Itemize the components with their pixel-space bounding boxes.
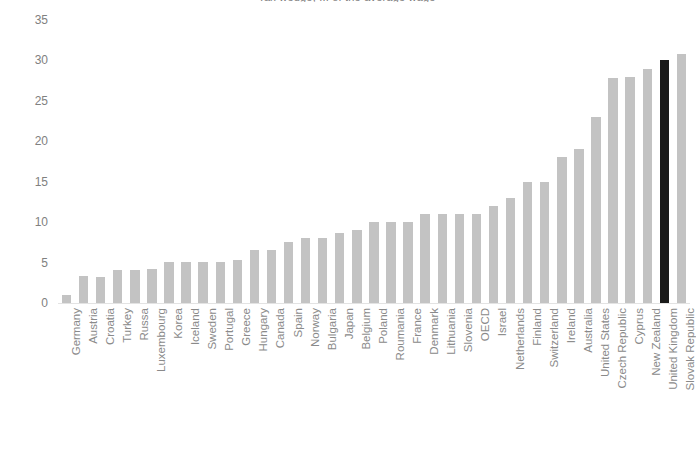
bar bbox=[660, 60, 669, 303]
bar bbox=[591, 117, 600, 303]
bar-cell bbox=[348, 20, 365, 303]
bar-cell bbox=[280, 20, 297, 303]
bar bbox=[523, 182, 532, 303]
x-axis-label-cell: United States bbox=[587, 306, 604, 454]
x-axis-tick-label: Slovak Republic bbox=[685, 308, 696, 390]
bar bbox=[506, 198, 515, 303]
y-axis-ticks: 05101520253035 bbox=[0, 0, 56, 454]
x-axis-label-cell: Cyprus bbox=[622, 306, 639, 454]
bar-cell bbox=[536, 20, 553, 303]
x-axis-label-cell: Denmark bbox=[417, 306, 434, 454]
x-axis-label-cell: Israel bbox=[485, 306, 502, 454]
bar-cell bbox=[331, 20, 348, 303]
bar-cell bbox=[178, 20, 195, 303]
bar bbox=[62, 295, 71, 303]
x-axis-label-cell: Switzerland bbox=[536, 306, 553, 454]
bar bbox=[301, 238, 310, 303]
bar bbox=[335, 233, 344, 303]
bar-cell bbox=[587, 20, 604, 303]
bar-cell bbox=[553, 20, 570, 303]
y-axis-tick-label: 30 bbox=[35, 54, 48, 66]
x-axis-label-cell: Luxembourg bbox=[143, 306, 160, 454]
x-axis-label-cell: Sweden bbox=[195, 306, 212, 454]
x-axis-label-cell: Croatia bbox=[92, 306, 109, 454]
bar bbox=[369, 222, 378, 303]
plot-area bbox=[58, 20, 690, 303]
y-axis-tick-label: 5 bbox=[41, 257, 48, 269]
y-axis-tick-label: 15 bbox=[35, 176, 48, 188]
bar bbox=[216, 262, 225, 303]
bar-cell bbox=[400, 20, 417, 303]
bar-cell bbox=[109, 20, 126, 303]
bar-cell bbox=[622, 20, 639, 303]
bar bbox=[403, 222, 412, 303]
x-axis-label-cell: Portugal bbox=[212, 306, 229, 454]
bar bbox=[574, 149, 583, 303]
x-axis-label-cell: Hungary bbox=[246, 306, 263, 454]
bar-cell bbox=[195, 20, 212, 303]
x-axis-label-cell: Slovak Republic bbox=[673, 306, 690, 454]
bar bbox=[198, 262, 207, 303]
x-axis-label-cell: Australia bbox=[570, 306, 587, 454]
x-axis-label-cell: Netherlands bbox=[502, 306, 519, 454]
x-axis-label-cell: Japan bbox=[331, 306, 348, 454]
bar-cell bbox=[502, 20, 519, 303]
bar bbox=[181, 262, 190, 303]
y-axis-tick-label: 10 bbox=[35, 216, 48, 228]
x-axis-label-cell: Poland bbox=[365, 306, 382, 454]
bar bbox=[284, 242, 293, 303]
x-axis-label-cell: New Zealand bbox=[639, 306, 656, 454]
bar bbox=[608, 78, 617, 303]
x-axis-label-cell: Turkey bbox=[109, 306, 126, 454]
bar bbox=[643, 69, 652, 303]
x-axis-label-cell: Bulgaria bbox=[314, 306, 331, 454]
bar-cell bbox=[570, 20, 587, 303]
bar-cell bbox=[434, 20, 451, 303]
x-axis-label-cell: OECD bbox=[468, 306, 485, 454]
bar-cell bbox=[212, 20, 229, 303]
bar bbox=[352, 230, 361, 303]
y-axis-tick-label: 0 bbox=[41, 297, 48, 309]
bar-cell bbox=[468, 20, 485, 303]
bar-cell bbox=[417, 20, 434, 303]
bar bbox=[420, 214, 429, 303]
bar-cell bbox=[58, 20, 75, 303]
x-axis-label-cell: Finland bbox=[519, 306, 536, 454]
y-axis-tick-label: 20 bbox=[35, 135, 48, 147]
bar bbox=[250, 250, 259, 303]
bar-cell bbox=[246, 20, 263, 303]
bar bbox=[147, 269, 156, 303]
x-axis-line bbox=[58, 303, 690, 304]
x-axis-label-cell: Iceland bbox=[178, 306, 195, 454]
bar bbox=[438, 214, 447, 303]
bar bbox=[472, 214, 481, 303]
x-axis-label-cell: United Kingdom bbox=[656, 306, 673, 454]
bar bbox=[625, 77, 634, 303]
bar bbox=[489, 206, 498, 303]
bar bbox=[386, 222, 395, 303]
bar bbox=[677, 54, 686, 303]
bar-cell bbox=[485, 20, 502, 303]
y-axis-tick-label: 25 bbox=[35, 95, 48, 107]
bar bbox=[318, 238, 327, 303]
bar-cell bbox=[297, 20, 314, 303]
bar-cell bbox=[143, 20, 160, 303]
bar-cell bbox=[160, 20, 177, 303]
bar bbox=[130, 270, 139, 303]
x-axis-label-cell: France bbox=[400, 306, 417, 454]
x-axis-label-cell: Russa bbox=[126, 306, 143, 454]
bar-cell bbox=[656, 20, 673, 303]
x-axis-label-cell: Czech Republic bbox=[605, 306, 622, 454]
bar bbox=[557, 157, 566, 303]
bar bbox=[79, 276, 88, 303]
bar bbox=[164, 262, 173, 303]
x-axis-label-cell: Ireland bbox=[553, 306, 570, 454]
bar-cell bbox=[605, 20, 622, 303]
bar-cell bbox=[451, 20, 468, 303]
x-axis-label-cell: Belgium bbox=[348, 306, 365, 454]
bar-cell bbox=[126, 20, 143, 303]
x-axis-label-cell: Norway bbox=[297, 306, 314, 454]
x-axis-label-cell: Canada bbox=[263, 306, 280, 454]
bar-cell bbox=[314, 20, 331, 303]
bar bbox=[540, 182, 549, 303]
